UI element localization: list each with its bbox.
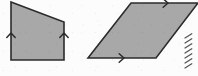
- figure-canvas: [0, 0, 198, 76]
- geometry-figure: [0, 0, 198, 76]
